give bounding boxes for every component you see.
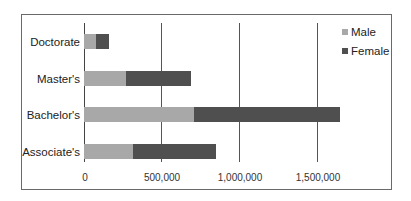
gridline-1000000 [239,23,240,162]
gridline-1500000 [317,23,318,162]
bar-segment-female [126,71,191,86]
x-tick-label-0: 0 [82,172,88,183]
bar-segment-female [194,107,340,122]
bar-masters [84,71,191,86]
legend-swatch-female-icon [342,48,348,54]
bar-segment-male [84,34,96,49]
bar-bachelors [84,107,340,122]
legend-item-female: Female [342,45,389,57]
x-tick-label-500000: 500,000 [144,172,180,183]
category-label-associates: Associate's [22,145,80,159]
bar-segment-female [133,144,216,159]
x-tick-label-1500000: 1,500,000 [296,172,341,183]
gridline-500000 [161,23,162,162]
category-label-doctorate: Doctorate [30,35,80,49]
x-tick-label-1000000: 1,000,000 [218,172,263,183]
legend-label-male: Male [351,26,376,38]
bar-segment-male [84,107,194,122]
bar-segment-male [84,144,133,159]
legend-item-male: Male [342,26,376,38]
chart-plot-area: Doctorate Master's Bachelor's Associate'… [0,0,411,201]
legend-label-female: Female [351,45,389,57]
legend-swatch-male-icon [342,29,348,35]
category-label-bachelors: Bachelor's [27,108,80,122]
bar-segment-female [96,34,109,49]
bar-associates [84,144,216,159]
bar-doctorate [84,34,109,49]
category-label-masters: Master's [37,72,80,86]
bar-segment-male [84,71,126,86]
